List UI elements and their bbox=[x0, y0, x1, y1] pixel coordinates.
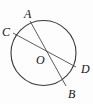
point-label-d: D bbox=[81, 63, 90, 75]
point-label-o: O bbox=[36, 54, 45, 66]
point-label-a: A bbox=[24, 8, 31, 20]
point-label-c: C bbox=[2, 26, 10, 38]
point-label-b: B bbox=[68, 88, 75, 100]
geometry-canvas bbox=[0, 0, 93, 104]
geometry-figure: A C O D B bbox=[0, 0, 93, 104]
